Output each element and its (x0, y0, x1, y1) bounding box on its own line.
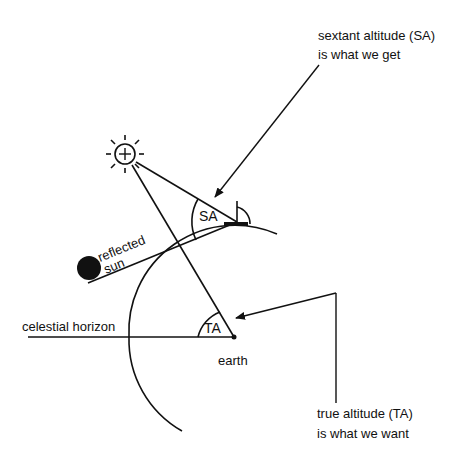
sextant-base (224, 222, 248, 226)
ta-angle-label: TA (204, 320, 222, 336)
celestial-horizon-label: celestial horizon (22, 319, 115, 334)
sextant-arc (237, 207, 250, 224)
sun-icon (106, 135, 144, 173)
sa-note-line2: is what we get (318, 47, 401, 62)
earth-surface-arc (129, 225, 277, 431)
sa-angle-label: SA (199, 208, 218, 224)
earth-label: earth (218, 353, 248, 368)
ta-pointer-arrow (236, 293, 336, 318)
ta-note-line1: true altitude (TA) (317, 406, 413, 421)
sa-pointer-arrow (215, 65, 319, 197)
earth-center-dot (232, 335, 237, 340)
sun-to-observer-line (136, 162, 237, 222)
reflected-sun-icon (77, 256, 101, 280)
ta-note-line2: is what we want (317, 426, 409, 441)
sextant-altitude-diagram: sextant altitude (SA) is what we get tru… (0, 0, 460, 460)
sa-note-line1: sextant altitude (SA) (318, 28, 435, 43)
